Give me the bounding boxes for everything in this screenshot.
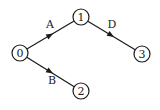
node-label: 0: [17, 47, 24, 60]
node-label: 3: [139, 48, 146, 61]
arrowhead-icon: [107, 31, 114, 37]
graph-diagram: ABD 0123: [0, 0, 160, 110]
node-label: 2: [78, 85, 85, 98]
edge-label: A: [45, 18, 55, 31]
arrowhead-icon: [46, 33, 53, 39]
edge-0-1: A: [27, 18, 74, 49]
graph-canvas: ABD 0123: [0, 0, 160, 110]
arrowhead-icon: [46, 68, 53, 74]
edge-0-2: B: [27, 57, 74, 87]
node-2: 2: [73, 83, 89, 99]
node-label: 1: [78, 11, 85, 24]
nodes-layer: 0123: [12, 9, 150, 99]
edge-1-3: D: [88, 18, 135, 50]
node-3: 3: [134, 46, 150, 62]
edges-layer: ABD: [27, 18, 135, 87]
edge-label: D: [108, 18, 117, 31]
edge-label: B: [48, 74, 56, 87]
node-0: 0: [12, 45, 28, 61]
node-1: 1: [73, 9, 89, 25]
